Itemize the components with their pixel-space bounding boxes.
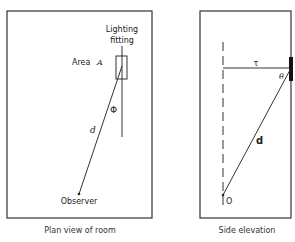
- plan-distance-d: d: [90, 125, 96, 135]
- plan-sightline: [79, 66, 122, 194]
- elevation-distance-d: d: [256, 135, 263, 146]
- elevation-tau-label: τ: [254, 59, 259, 68]
- plan-angle-phi: Φ: [110, 105, 117, 115]
- plan-observer-point: [78, 193, 81, 196]
- side-elevation: τ θ d O Side elevation: [200, 11, 293, 235]
- plan-view-caption: Plan view of room: [44, 226, 116, 235]
- elevation-sightline: [223, 70, 290, 195]
- observer-label: Observer: [61, 197, 98, 206]
- side-elevation-caption: Side elevation: [219, 226, 276, 235]
- elevation-angle-theta: θ: [279, 72, 284, 81]
- area-label: Area: [72, 58, 91, 67]
- fitting-label-line2: fitting: [110, 36, 134, 45]
- area-symbol: A: [96, 58, 103, 67]
- elevation-observer-o: O: [226, 197, 232, 206]
- fitting-label-line1: Lighting: [106, 25, 138, 34]
- elevation-room-outline: [200, 11, 291, 218]
- elevation-fitting-bar: [289, 57, 293, 81]
- plan-view: Lighting fitting Area A Φ d Observer Pla…: [7, 11, 152, 235]
- elevation-observer-point: [222, 194, 225, 197]
- lighting-geometry-diagram: Lighting fitting Area A Φ d Observer Pla…: [0, 0, 295, 242]
